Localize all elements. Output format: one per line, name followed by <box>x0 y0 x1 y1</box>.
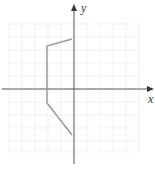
graph <box>0 0 155 169</box>
y-axis-arrow-icon <box>71 4 77 11</box>
x-axis-label: x <box>148 92 153 107</box>
graph-line <box>47 39 72 135</box>
y-axis-label: y <box>81 1 86 16</box>
